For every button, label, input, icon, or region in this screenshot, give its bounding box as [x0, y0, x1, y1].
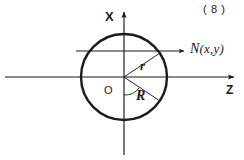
normal-vector-symbol: N: [190, 41, 200, 56]
figure-diagram-sphere-cross-section: X Z O r R N(x,y) ( 8 ): [0, 0, 244, 160]
origin-label: O: [104, 85, 113, 96]
radius-small-label: r: [140, 59, 145, 72]
diagram-canvas: [0, 0, 244, 160]
axis-label-x: X: [105, 10, 114, 23]
figure-number-label: ( 8 ): [203, 4, 226, 15]
axis-label-z: Z: [226, 84, 234, 96]
normal-vector-label: N(x,y): [190, 42, 224, 56]
radius-large-label: R: [136, 89, 145, 103]
normal-vector-arguments: (x,y): [200, 41, 224, 56]
